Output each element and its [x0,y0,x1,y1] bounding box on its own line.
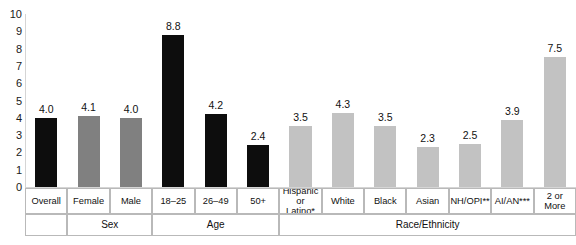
bar-slot [35,14,57,187]
bar-value-label: 3.5 [279,112,321,123]
category-cell-label: Black [374,196,397,206]
category-cell: 2 or More [534,188,576,214]
category-cell-label: AI/AN*** [495,196,530,206]
bar-value-label: 7.5 [534,43,576,54]
bar[interactable] [289,126,311,187]
category-cell-label: 2 or More [536,191,574,211]
bar[interactable] [35,118,57,187]
bar-slot [120,14,142,187]
bar-slot [501,14,523,187]
category-cell-label: Overall [31,196,60,206]
bar[interactable] [374,126,396,187]
category-cell: Hispanicor Latino* [279,188,321,214]
category-cell-label: Female [73,196,104,206]
bar-value-label: 4.0 [25,104,67,115]
y-axis-tick-label: 5 [0,95,22,106]
bar-slot [374,14,396,187]
group-cell: Age [152,214,279,236]
category-cell-label: Male [121,196,141,206]
category-cell-label: 26–49 [203,196,229,206]
y-axis-tick-label: 0 [0,182,22,193]
category-cell-label: Hispanicor Latino* [281,188,319,214]
bar-slot [162,14,184,187]
y-axis-tick-label: 8 [0,43,22,54]
bar-value-label: 8.8 [152,21,194,32]
y-axis-tick-label: 10 [0,9,22,20]
category-cell-label: White [331,196,355,206]
category-cell: 18–25 [152,188,194,214]
category-cell-label: Asian [416,196,439,206]
bar[interactable] [247,145,269,187]
category-cell-label: 50+ [250,196,266,206]
y-axis-tick-label: 2 [0,147,22,158]
y-axis-tick-label: 4 [0,112,22,123]
bar-slot [247,14,269,187]
bar[interactable] [120,118,142,187]
category-cell: White [322,188,364,214]
bar[interactable] [162,35,184,187]
y-axis-tick-label: 1 [0,164,22,175]
category-cell-label: NH/OPI** [450,196,489,206]
group-cell: Race/Ethnicity [279,214,576,236]
bar-value-label: 4.0 [110,104,152,115]
category-cell: Black [364,188,406,214]
y-axis-tick-label: 3 [0,130,22,141]
bar-value-label: 2.5 [449,130,491,141]
category-cell: Overall [25,188,67,214]
category-cell: Female [67,188,109,214]
y-axis-tick-label: 6 [0,78,22,89]
bar-value-label: 2.4 [237,131,279,142]
bar-value-label: 3.9 [491,106,533,117]
bar-value-label: 4.2 [195,100,237,111]
group-cell-empty [25,214,67,236]
bar[interactable] [459,144,481,187]
bar-chart: 109876543210 4.04.14.08.84.22.43.54.33.5… [0,0,576,245]
category-cell: 50+ [237,188,279,214]
bar[interactable] [417,147,439,187]
bar[interactable] [205,114,227,187]
bar[interactable] [501,120,523,187]
y-axis-tick-label: 7 [0,60,22,71]
bar-slot [544,14,566,187]
bar-slot [289,14,311,187]
category-cell: AI/AN*** [491,188,533,214]
category-cell: Male [110,188,152,214]
group-cell: Sex [67,214,152,236]
bar[interactable] [332,113,354,187]
category-cell-label: 18–25 [160,196,186,206]
bar-value-label: 4.1 [67,102,109,113]
y-axis-tick-label: 9 [0,26,22,37]
category-cell: NH/OPI** [449,188,491,214]
bars-container: 4.04.14.08.84.22.43.54.33.52.32.53.97.5 [25,14,576,187]
bar-slot [459,14,481,187]
bar[interactable] [78,116,100,187]
bar-slot [417,14,439,187]
bar[interactable] [544,57,566,187]
category-cell: 26–49 [195,188,237,214]
y-axis-labels: 109876543210 [0,0,22,188]
bar-value-label: 4.3 [322,99,364,110]
category-cell: Asian [406,188,448,214]
bar-value-label: 2.3 [406,133,448,144]
bar-value-label: 3.5 [364,112,406,123]
